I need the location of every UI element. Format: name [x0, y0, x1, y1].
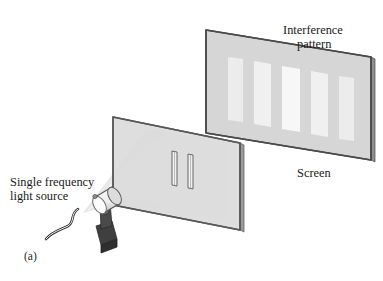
figure-canvas: Single frequency light source Interferen… [0, 0, 383, 281]
slit-right [188, 154, 193, 189]
fringe-band [339, 76, 354, 141]
fringe-band [254, 61, 271, 127]
fringe-band [228, 57, 243, 122]
fringe-band [311, 71, 328, 137]
interference-figure: Single frequency light source Interferen… [0, 0, 383, 281]
pattern-label-line2: pattern [297, 37, 331, 51]
source-label-line1: Single frequency [10, 175, 95, 189]
source-label-line2: light source [10, 189, 69, 203]
lamp-stud [93, 195, 97, 199]
figure-caption: (a) [24, 250, 37, 263]
screen-label: Screen [297, 166, 331, 180]
slit-left [172, 151, 177, 186]
fringe-band [282, 66, 300, 132]
pattern-label-line1: Interference [283, 23, 343, 37]
